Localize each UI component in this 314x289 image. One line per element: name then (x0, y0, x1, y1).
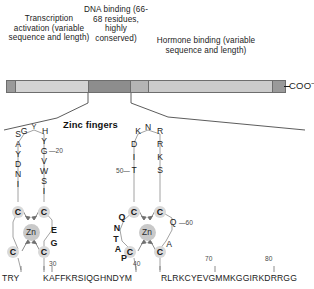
coo-charge: – (311, 79, 314, 86)
left-finger-residue-H-top: H (41, 127, 50, 136)
position-marker-20-text: 20 (56, 147, 63, 154)
right-finger-residue-A-lower: A (165, 240, 174, 249)
left-finger-residue-V: V (40, 157, 49, 166)
caption-transcription-activation: Transcription activation (variable seque… (6, 14, 92, 43)
right-finger-residue-K-top: K (134, 127, 143, 136)
sequence-right-main: RLRKCYEVGMMKGGIRKDRRGG (161, 273, 297, 283)
position-marker-20: —20 (49, 147, 63, 154)
caption-dna-binding: DNA binding (66-68 residues, highly cons… (84, 5, 148, 43)
right-finger-residue-Q-lower: Q (169, 218, 178, 227)
right-finger-residue-D: D (130, 140, 139, 149)
right-finger-cys-top-right: C (154, 206, 166, 218)
right-finger-residue-R-top: R (156, 127, 165, 136)
left-finger-residue-E: E (50, 226, 59, 235)
left-finger-residue-Y-top: Y (30, 123, 39, 132)
left-finger-zinc-ion: Zn (23, 224, 40, 241)
position-marker-60-text: 60 (186, 219, 193, 226)
right-finger-residue-P: P (120, 254, 129, 263)
left-finger-cys-bottom-right: C (38, 246, 50, 258)
left-finger-cys-top-right: C (38, 206, 50, 218)
left-finger-residue-G-top: G (20, 127, 29, 136)
caption-hormone-binding: Hormone binding (variable sequence and l… (150, 36, 262, 55)
left-finger-residue-I: I (40, 187, 49, 196)
left-finger-residue-D: D (14, 160, 23, 169)
left-finger-residue-N: N (14, 170, 23, 179)
right-finger-zinc-ion: Zn (139, 224, 156, 241)
left-finger-residue-G: G (50, 239, 59, 248)
right-finger-residue-S: S (156, 166, 165, 175)
left-finger-residue-S: S (40, 177, 49, 186)
left-finger-residue-G: G (40, 147, 49, 156)
right-finger-residue-T: T (130, 166, 139, 175)
right-finger-residue-Q: Q (118, 213, 127, 222)
position-marker-60: —60 (179, 219, 193, 226)
left-finger-residue-I: I (14, 180, 23, 189)
right-finger-residue-R: R (156, 140, 165, 149)
left-finger-residue-A: A (14, 140, 23, 149)
right-finger-residue-K: K (156, 153, 165, 162)
left-finger-cys-top-left: C (12, 206, 24, 218)
left-finger-cys-bottom-left: C (7, 246, 19, 258)
left-finger-residue-Y: Y (14, 150, 23, 159)
figure-root: Transcription activation (variable seque… (0, 0, 314, 289)
right-finger-residue-N: N (113, 224, 122, 233)
right-finger-residue-I: I (130, 153, 139, 162)
left-finger-residue-Y: Y (40, 137, 49, 146)
position-marker-50-text: 50 (116, 167, 123, 174)
left-finger-residue-W: W (40, 167, 49, 176)
right-finger-residue-T: T (112, 235, 121, 244)
position-marker-80: 80 (265, 255, 272, 262)
right-finger-residue-N-top: N (144, 123, 153, 132)
position-marker-50: 50— (116, 167, 130, 174)
sequence-left-main: KAFFKRSIQGHNDYM (43, 273, 132, 283)
sequence-left-prefix: TRY (2, 273, 19, 283)
right-finger-cys-top-left: C (128, 206, 140, 218)
position-marker-70: 70 (205, 255, 212, 262)
